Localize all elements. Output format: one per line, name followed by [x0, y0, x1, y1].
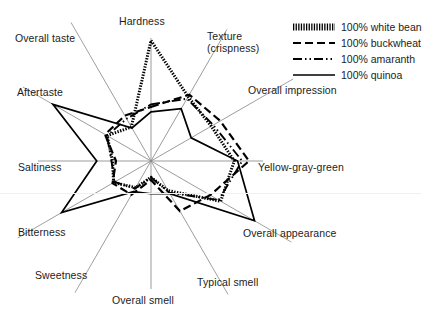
- label-texture-line1: Texture: [207, 30, 242, 42]
- label-overall-appearance: Overall appearance: [243, 228, 336, 240]
- legend-label: 100% amaranth: [341, 53, 415, 65]
- legend-item-2[interactable]: 100% amaranth: [292, 52, 418, 65]
- label-typical-smell: Typical smell: [197, 277, 258, 289]
- legend-key-buckwheat: [292, 37, 336, 49]
- label-overall-impression: Overall impression: [248, 85, 337, 97]
- chart-legend: 100% white bean100% buckwheat100% amaran…: [292, 20, 418, 84]
- legend-item-0[interactable]: 100% white bean: [292, 20, 418, 33]
- radar-axis-spoke: [151, 161, 211, 265]
- label-saltiness: Saltiness: [18, 162, 62, 174]
- radar-axes: [38, 38, 263, 289]
- label-overall-smell: Overall smell: [112, 295, 174, 307]
- legend-key-quinoa: [292, 69, 336, 81]
- legend-label: 100% buckwheat: [341, 37, 421, 49]
- label-texture-crispness: Texture (crispness): [207, 31, 269, 54]
- label-aftertaste: Aftertaste: [17, 87, 63, 99]
- label-yellow-gray-green: Yellow-gray-green: [258, 162, 344, 174]
- radar-axis-spoke: [92, 161, 151, 263]
- legend-key-amaranth: [292, 53, 336, 65]
- label-overall-taste: Overall taste: [15, 33, 75, 45]
- legend-item-1[interactable]: 100% buckwheat: [292, 36, 418, 49]
- legend-item-3[interactable]: 100% quinoa: [292, 68, 418, 81]
- radar-axis-spoke: [151, 59, 210, 161]
- scan-artifact-line: [0, 193, 421, 194]
- legend-label: 100% quinoa: [341, 69, 402, 81]
- radar-series-hatched: [107, 40, 234, 201]
- label-hardness: Hardness: [119, 16, 165, 28]
- legend-label: 100% white bean: [341, 21, 422, 33]
- label-texture-line2: (crispness): [207, 42, 259, 54]
- legend-key-white-bean: [292, 21, 336, 33]
- label-sweetness: Sweetness: [35, 270, 87, 282]
- label-bitterness: Bitterness: [18, 227, 66, 239]
